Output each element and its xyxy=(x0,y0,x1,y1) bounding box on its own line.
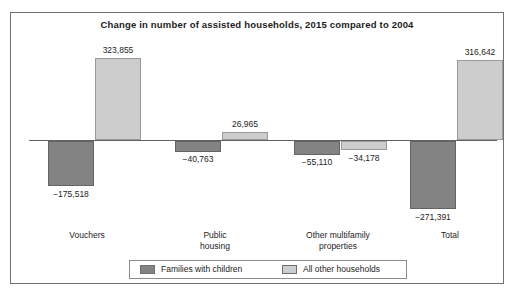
bar-label-total-others: 316,642 xyxy=(437,47,516,57)
category-label-other-multifamily: Other multifamily properties xyxy=(280,230,396,252)
chart-frame: Change in number of assisted households,… xyxy=(10,12,504,284)
legend-label-families-with-children: Families with children xyxy=(161,264,242,274)
legend-swatch-families-icon xyxy=(140,265,155,274)
bar-total-others[interactable] xyxy=(457,60,503,140)
bar-public-housing-families[interactable] xyxy=(175,141,221,152)
bar-total-families[interactable] xyxy=(410,141,456,209)
bar-label-total-families: −271,391 xyxy=(390,212,476,222)
legend-item-families-with-children[interactable]: Families with children xyxy=(140,264,242,274)
chart-title: Change in number of assisted households,… xyxy=(11,19,503,30)
chart-legend: Families with children All other househo… xyxy=(129,260,407,279)
legend-swatch-others-icon xyxy=(282,265,297,274)
legend-item-all-other-households[interactable]: All other households xyxy=(282,264,380,274)
bar-label-vouchers-families: −175,518 xyxy=(28,189,114,199)
category-label-total: Total xyxy=(397,230,503,241)
bar-vouchers-families[interactable] xyxy=(48,141,94,186)
bar-vouchers-others[interactable] xyxy=(95,58,141,140)
plot-area: −175,518 323,855 −40,763 26,965 −55,110 … xyxy=(29,33,497,223)
category-label-vouchers: Vouchers xyxy=(34,230,140,241)
category-label-public-housing: Public housing xyxy=(162,230,268,252)
bar-public-housing-others[interactable] xyxy=(222,132,268,140)
legend-label-all-other-households: All other households xyxy=(303,264,380,274)
bar-other-multifamily-others[interactable] xyxy=(341,141,387,150)
bar-label-vouchers-others: 323,855 xyxy=(75,45,161,55)
bar-label-other-multifamily-others: −34,178 xyxy=(321,153,407,163)
bar-label-public-housing-others: 26,965 xyxy=(202,119,288,129)
bar-label-public-housing-families: −40,763 xyxy=(155,154,241,164)
